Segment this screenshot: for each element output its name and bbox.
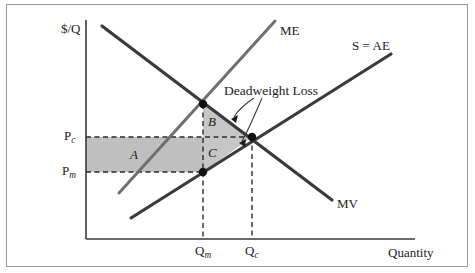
quantity-label-qm: Qm xyxy=(195,244,211,260)
quantity-label-qc-sub: c xyxy=(254,250,258,260)
region-label-b: B xyxy=(208,115,216,128)
monopsony-price-point xyxy=(199,168,207,176)
curve-label-s: S xyxy=(352,38,359,53)
curve-label-me: ME xyxy=(280,24,300,37)
curve-label-s-ae: S=AE xyxy=(352,39,390,52)
curve-label-mv: MV xyxy=(337,197,358,210)
price-label-pm: Pm xyxy=(62,164,76,180)
leader-line-to-b xyxy=(234,98,254,117)
quantity-label-qc-base: Q xyxy=(245,243,254,258)
monopsony-point xyxy=(199,100,207,108)
competitive-point xyxy=(248,133,256,141)
quantity-label-qm-sub: m xyxy=(204,250,211,260)
price-label-pc-sub: c xyxy=(71,135,75,145)
y-axis-label: $/Q xyxy=(61,22,81,35)
curve-label-equals: = xyxy=(362,38,369,53)
quantity-label-qc: Qc xyxy=(245,244,259,260)
region-label-a: A xyxy=(130,148,138,161)
deadweight-loss-annotation: Deadweight Loss xyxy=(224,84,318,98)
quantity-label-qm-base: Q xyxy=(195,243,204,258)
curve-label-ae: AE xyxy=(373,38,390,53)
price-label-pc: Pc xyxy=(64,129,75,145)
price-label-pm-sub: m xyxy=(69,170,76,180)
figure-root: $/Q Quantity ME MV S=AE Pc Pm Qm Qc A B … xyxy=(0,0,475,273)
region-label-c: C xyxy=(208,146,217,159)
x-axis-label: Quantity xyxy=(388,246,434,259)
